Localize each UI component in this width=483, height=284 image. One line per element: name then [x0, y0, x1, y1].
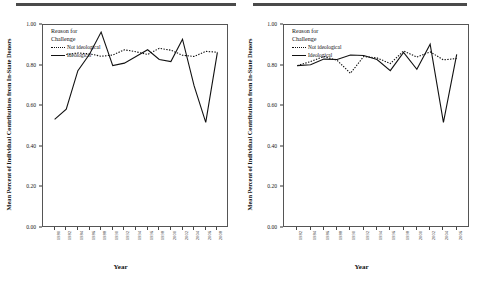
x-axis-tick-mark: [216, 227, 217, 230]
legend-left: Reason for Challenge Not ideological Ide…: [51, 28, 100, 59]
solid-line-icon: [292, 53, 306, 58]
x-axis-tick-mark: [296, 227, 297, 230]
dotted-line-icon: [51, 45, 65, 50]
y-axis-tick-label: 0.00: [26, 224, 36, 230]
x-axis-tick-label: 1998: [405, 231, 410, 240]
x-axis-tick-label: 2000: [418, 231, 423, 240]
legend-label-not-ideological: Not ideological: [67, 44, 100, 51]
legend-title-line1: Reason for: [51, 28, 100, 36]
legend-right: Reason for Challenge Not ideological Ide…: [292, 28, 341, 59]
y-axis-tick-label: 0.40: [267, 143, 277, 149]
x-axis-tick-mark: [323, 227, 324, 230]
top-rules: [0, 0, 483, 14]
x-axis-tick-label: 1994: [378, 231, 383, 240]
x-axis-tick-label: 1982: [67, 231, 72, 240]
x-axis-tick-label: 1988: [102, 231, 107, 240]
x-axis-tick-label: 2000: [172, 231, 177, 240]
chart-panel-left: Mean Percent of Individual Contributions…: [0, 14, 241, 284]
x-axis-tick-mark: [336, 227, 337, 230]
legend-label-ideological: Ideological: [67, 52, 91, 59]
legend-entry-not-ideological: Not ideological: [51, 44, 100, 51]
x-axis-tick-mark: [389, 227, 390, 230]
y-axis-title-left: Mean Percent of Individual Contributions…: [2, 24, 16, 224]
x-axis-tick-label: 1984: [312, 231, 317, 240]
x-axis-tick-label: 2002: [431, 231, 436, 240]
y-axis-tick-label: 0.40: [26, 143, 36, 149]
chart-panel-right: Mean Percent of Individual Contributions…: [241, 14, 482, 284]
dotted-line-icon: [292, 45, 306, 50]
x-axis-title-right: Year: [241, 263, 482, 271]
x-axis-tick-mark: [123, 227, 124, 230]
x-axis-tick-label: 2006: [458, 231, 463, 240]
legend-entry-ideological-right: Ideological: [292, 52, 341, 59]
x-axis-tick-mark: [429, 227, 430, 230]
legend-title-line1-right: Reason for: [292, 28, 341, 36]
x-axis-tick-label: 1992: [365, 231, 370, 240]
y-axis-tick-label: 1.00: [26, 21, 36, 27]
legend-title-line2: Challenge: [51, 36, 100, 44]
legend-title-line2-right: Challenge: [292, 36, 341, 44]
legend-label-not-ideological-right: Not ideological: [308, 44, 341, 51]
x-axis-tick-label: 1988: [338, 231, 343, 240]
figure-panels: Mean Percent of Individual Contributions…: [0, 14, 483, 284]
y-axis-tick-label: 0.20: [267, 183, 277, 189]
x-axis-tick-mark: [100, 227, 101, 230]
x-axis-tick-mark: [147, 227, 148, 230]
x-axis-tick-mark: [158, 227, 159, 230]
x-axis-tick-mark: [65, 227, 66, 230]
x-axis-tick-label: 1980: [56, 231, 61, 240]
x-axis-tick-label: 2004: [195, 231, 200, 240]
x-axis-tick-mark: [205, 227, 206, 230]
y-axis-ticks-left: 0.000.200.400.600.801.00: [16, 14, 42, 227]
x-axis-tick-mark: [170, 227, 171, 230]
x-axis-tick-mark: [403, 227, 404, 230]
x-axis-tick-label: 2002: [184, 231, 189, 240]
x-axis-tick-mark: [376, 227, 377, 230]
x-axis-tick-label: 1994: [137, 231, 142, 240]
x-axis-tick-mark: [310, 227, 311, 230]
legend-entry-not-ideological-right: Not ideological: [292, 44, 341, 51]
x-axis-tick-label: 1996: [149, 231, 154, 240]
plot-area-right: Reason for Challenge Not ideological Ide…: [283, 24, 469, 227]
x-axis-tick-mark: [416, 227, 417, 230]
y-axis-tick-label: 0.60: [267, 102, 277, 108]
x-axis-tick-mark: [442, 227, 443, 230]
x-axis-tick-mark: [182, 227, 183, 230]
legend-label-ideological-right: Ideological: [308, 52, 332, 59]
y-axis-title-left-text: Mean Percent of Individual Contributions…: [6, 38, 13, 210]
y-axis-tick-label: 1.00: [267, 21, 277, 27]
y-axis-tick-label: 0.20: [26, 183, 36, 189]
x-axis-tick-mark: [456, 227, 457, 230]
x-axis-tick-mark: [77, 227, 78, 230]
x-axis-tick-label: 1982: [298, 231, 303, 240]
x-axis-tick-mark: [54, 227, 55, 230]
x-axis-tick-label: 1996: [391, 231, 396, 240]
x-axis-tick-label: 2004: [444, 231, 449, 240]
x-axis-tick-mark: [135, 227, 136, 230]
x-axis-tick-label: 1986: [91, 231, 96, 240]
x-axis-tick-mark: [349, 227, 350, 230]
y-axis-tick-label: 0.80: [267, 62, 277, 68]
x-axis-tick-label: 2008: [218, 231, 223, 240]
y-axis-title-right-text: Mean Percent of Individual Contributions…: [247, 38, 254, 210]
x-axis-tick-mark: [112, 227, 113, 230]
x-axis-tick-label: 1984: [79, 231, 84, 240]
top-rule-right: [253, 3, 467, 6]
y-axis-ticks-right: 0.000.200.400.600.801.00: [257, 14, 283, 227]
x-axis-tick-label: 2006: [207, 231, 212, 240]
x-axis-tick-label: 1986: [325, 231, 330, 240]
x-axis-tick-label: 1992: [125, 231, 130, 240]
solid-line-icon: [51, 53, 65, 58]
x-axis-tick-mark: [193, 227, 194, 230]
top-rule-left: [16, 3, 236, 6]
y-axis-tick-label: 0.00: [267, 224, 277, 230]
x-axis-tick-mark: [89, 227, 90, 230]
x-axis-title-left: Year: [0, 263, 241, 271]
x-axis-tick-label: 1998: [160, 231, 165, 240]
legend-entry-ideological: Ideological: [51, 52, 100, 59]
y-axis-tick-label: 0.60: [26, 102, 36, 108]
plot-area-left: Reason for Challenge Not ideological Ide…: [42, 24, 228, 227]
x-axis-tick-label: 1990: [351, 231, 356, 240]
x-axis-tick-label: 1990: [114, 231, 119, 240]
y-axis-tick-label: 0.80: [26, 62, 36, 68]
